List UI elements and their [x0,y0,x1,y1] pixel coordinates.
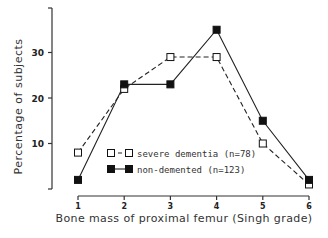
x-tick-label: 2 [121,202,127,211]
legend-open-square-icon [108,150,115,157]
legend-open-square-icon [126,150,133,157]
legend-label: non-demented (n=123) [137,165,245,175]
legend-filled-square-icon [108,166,115,173]
line-chart: 102030123456severe dementia (n=78)non-de… [0,0,328,238]
x-tick-label: 4 [214,202,220,211]
open-square-marker [167,54,174,61]
x-tick-label: 1 [75,202,81,211]
open-square-marker [75,149,82,156]
filled-square-marker [167,81,174,88]
open-square-marker [259,140,266,147]
y-tick-label: 10 [31,139,44,149]
filled-square-marker [121,81,128,88]
filled-square-marker [75,176,82,183]
open-square-marker [213,54,220,61]
y-axis-title: Percentage of subjects [12,27,25,187]
x-tick-label: 5 [260,202,266,211]
x-tick-label: 3 [168,202,174,211]
legend-label: severe dementia (n=78) [137,149,256,159]
x-axis-title: Bone mass of proximal femur (Singh grade… [44,212,324,225]
filled-square-marker [259,117,266,124]
y-tick-label: 30 [31,48,44,58]
filled-square-marker [213,26,220,33]
x-tick-label: 6 [306,202,312,211]
filled-square-marker [306,176,313,183]
legend-filled-square-icon [126,166,133,173]
y-tick-label: 20 [31,94,44,104]
